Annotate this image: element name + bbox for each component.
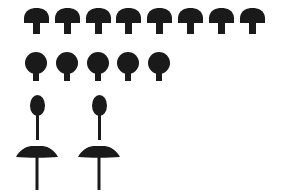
domed-cap-row <box>0 8 282 48</box>
mushroom-round-icon <box>56 52 78 81</box>
mushroom-domed-icon <box>209 8 234 34</box>
mushroom-oval-icon <box>30 95 45 140</box>
oval-cap-row <box>0 95 282 141</box>
mushroom-pictogram-figure <box>0 0 282 193</box>
mushroom-flat-icon <box>78 146 120 190</box>
mushroom-domed-icon <box>116 8 141 34</box>
mushroom-domed-icon <box>24 8 49 34</box>
mushroom-round-icon <box>87 52 109 81</box>
mushroom-round-icon <box>148 52 170 81</box>
flat-cap-row <box>0 146 282 193</box>
mushroom-domed-icon <box>86 8 111 34</box>
round-cap-row <box>0 52 282 92</box>
mushroom-domed-icon <box>178 8 203 34</box>
mushroom-domed-icon <box>55 8 80 34</box>
mushroom-round-icon <box>25 52 47 81</box>
mushroom-domed-icon <box>147 8 172 34</box>
mushroom-round-icon <box>117 52 139 81</box>
mushroom-oval-icon <box>92 95 107 140</box>
mushroom-flat-icon <box>16 146 58 190</box>
mushroom-domed-icon <box>240 8 265 34</box>
